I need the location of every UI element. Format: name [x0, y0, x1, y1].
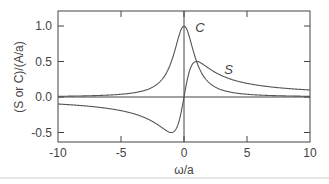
x-tick-label: -10 — [49, 146, 67, 160]
curve-label-C: C — [195, 20, 205, 35]
curve-annotations: CS — [195, 20, 233, 77]
x-tick-label: -5 — [116, 146, 127, 160]
bottom-divider — [0, 177, 329, 179]
y-tick-label: -0.5 — [31, 126, 52, 140]
x-tick-label: 5 — [244, 146, 251, 160]
y-tick-label: 0.5 — [35, 55, 52, 69]
tick-labels: -10-50510-0.50.00.51.0 — [31, 19, 317, 160]
curve-label-S: S — [224, 62, 233, 77]
reference-lines — [58, 11, 310, 142]
y-axis-label: (S or C)/(A/a) — [12, 41, 26, 112]
x-axis-label: ω/a — [174, 163, 194, 177]
x-tick-label: 10 — [303, 146, 317, 160]
y-tick-label: 0.0 — [35, 90, 52, 104]
x-tick-label: 0 — [181, 146, 188, 160]
chart: -10-50510-0.50.00.51.0 CS ω/a (S or C)/(… — [0, 0, 329, 184]
y-tick-label: 1.0 — [35, 19, 52, 33]
